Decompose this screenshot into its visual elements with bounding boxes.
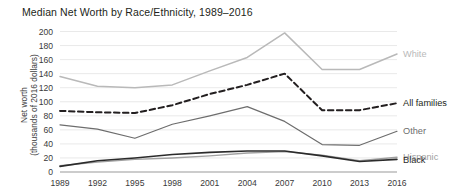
series-label-group: WhiteAll familiesOtherHispanicBlack [403,49,447,164]
gridlines-group [60,32,397,158]
y-tick-label: 140 [39,69,54,79]
y-tick-label: 120 [39,83,54,93]
y-axis-title-line1: Net worth [19,87,29,123]
x-tick-label: 1989 [50,178,69,188]
series-line-all-families [60,74,397,113]
y-tick-label: 200 [39,27,54,37]
x-tick-label: 2010 [313,178,332,188]
x-tick-label: 2007 [275,178,294,188]
y-tick-label: 0 [48,167,53,177]
series-label-black: Black [403,155,426,165]
series-group [60,33,397,166]
series-label-other: Other [403,126,426,136]
series-line-hispanic [60,152,397,166]
series-line-white [60,33,397,88]
y-axis-title-group: Net worth (thousands of 2016 dollars) [19,54,39,156]
x-tick-label: 1992 [88,178,107,188]
x-tick-label: 2016 [387,178,406,188]
y-axis-title-line2: (thousands of 2016 dollars) [29,54,39,156]
x-axis-tick-labels: 1989199219951998200120042007201020132016 [50,178,406,188]
x-tick-label: 1995 [125,178,144,188]
y-tick-label: 160 [39,55,54,65]
line-chart-plot: 020406080100120140160180200 198919921995… [0,0,463,195]
chart-figure: Median Net Worth by Race/Ethnicity, 1989… [0,0,463,195]
y-tick-label: 80 [43,111,53,121]
y-tick-label: 20 [43,153,53,163]
y-axis-tick-labels: 020406080100120140160180200 [39,27,54,178]
x-tick-label: 2013 [350,178,369,188]
y-tick-label: 100 [39,97,54,107]
y-tick-label: 60 [43,125,53,135]
y-tick-label: 40 [43,139,53,149]
series-label-white: White [403,49,427,59]
series-label-all-families: All families [403,98,447,108]
y-tick-label: 180 [39,41,54,51]
x-tick-label: 2004 [238,178,257,188]
x-tick-label: 1998 [163,178,182,188]
x-tick-label: 2001 [200,178,219,188]
